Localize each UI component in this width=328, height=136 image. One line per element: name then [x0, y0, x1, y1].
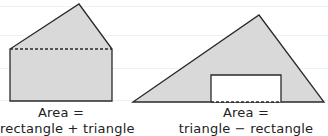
caption-right: Area = triangle − rectangle	[176, 105, 316, 136]
caption-left: Area = rectangle + triangle	[0, 105, 122, 136]
composite-shape-right	[133, 15, 324, 102]
rectangle-hole	[211, 75, 281, 102]
caption-left-line1: Area =	[0, 105, 122, 121]
caption-right-line2: triangle − rectangle	[176, 121, 316, 136]
pentagon-shape	[10, 4, 112, 101]
composite-shape-left	[10, 4, 112, 101]
caption-left-line2: rectangle + triangle	[0, 121, 122, 136]
caption-right-line1: Area =	[176, 105, 316, 121]
